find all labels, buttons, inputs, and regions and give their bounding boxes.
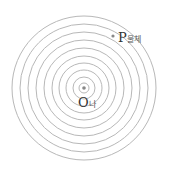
concentric-wave-diagram: P물체 O나 — [0, 0, 169, 175]
rings-svg — [0, 0, 169, 175]
point-p-dot — [111, 34, 114, 37]
point-p-label: P물체 — [118, 29, 141, 45]
center-o-label: O나 — [78, 94, 96, 110]
center-suffix: 나 — [89, 100, 96, 109]
center-letter: O — [78, 95, 89, 110]
point-suffix: 물체 — [127, 35, 141, 44]
center-dot — [82, 86, 86, 90]
point-letter: P — [118, 30, 127, 45]
